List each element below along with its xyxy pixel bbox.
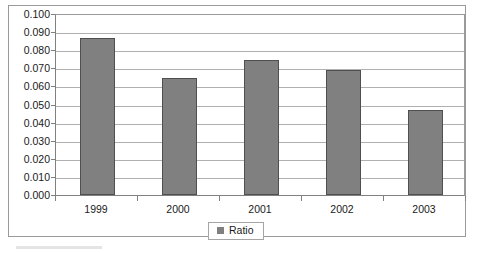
bar-chart-figure: 0.1000.0900.0800.0700.0600.0500.0400.030… bbox=[0, 0, 479, 253]
x-axis-tick-label: 2000 bbox=[137, 203, 219, 215]
x-axis-tick-mark bbox=[137, 196, 138, 201]
y-axis-tick-label: 0.080 bbox=[6, 45, 50, 55]
gridline bbox=[56, 33, 464, 34]
bar-1999 bbox=[80, 38, 115, 195]
y-axis-tick-label: 0.030 bbox=[6, 136, 50, 146]
x-axis-tick-mark bbox=[383, 196, 384, 201]
legend-swatch-ratio bbox=[217, 227, 224, 234]
x-axis-tick-mark bbox=[55, 196, 56, 201]
y-axis-tick-labels: 0.1000.0900.0800.0700.0600.0500.0400.030… bbox=[0, 14, 50, 196]
x-axis-tick-label: 2001 bbox=[219, 203, 301, 215]
legend-label-ratio: Ratio bbox=[229, 225, 254, 236]
x-axis-tick-mark bbox=[219, 196, 220, 201]
chart-legend: Ratio bbox=[208, 222, 264, 240]
bar-2001 bbox=[244, 60, 279, 195]
gridline bbox=[56, 51, 464, 52]
y-axis-tick-label: 0.060 bbox=[6, 81, 50, 91]
scan-artifact bbox=[16, 246, 102, 249]
x-axis-tick-label: 2003 bbox=[383, 203, 465, 215]
x-axis-tick-label: 2002 bbox=[301, 203, 383, 215]
y-axis-tick-label: 0.090 bbox=[6, 27, 50, 37]
bar-2003 bbox=[408, 110, 443, 195]
x-axis-tick-mark bbox=[465, 196, 466, 201]
x-axis-tick-label: 1999 bbox=[55, 203, 137, 215]
bar-2000 bbox=[162, 78, 197, 195]
x-axis-tick-mark bbox=[301, 196, 302, 201]
y-axis-tick-label: 0.000 bbox=[6, 190, 50, 200]
bar-2002 bbox=[326, 70, 361, 195]
y-axis-tick-label: 0.050 bbox=[6, 100, 50, 110]
y-axis-tick-label: 0.070 bbox=[6, 63, 50, 73]
y-axis-tick-label: 0.040 bbox=[6, 118, 50, 128]
y-axis-tick-label: 0.020 bbox=[6, 154, 50, 164]
y-axis-tick-label: 0.010 bbox=[6, 172, 50, 182]
plot-area bbox=[55, 14, 465, 196]
y-axis-tick-label: 0.100 bbox=[6, 9, 50, 19]
